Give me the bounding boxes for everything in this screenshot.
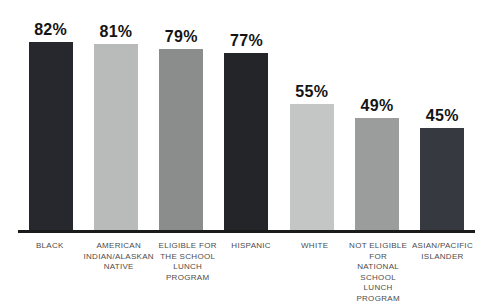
bar-chart: 82% 81% 79% 77% 55% 49% 45% BLACK	[0, 0, 498, 304]
category-label-eligible-school-lunch: ELIGIBLE FOR THE SCHOOL LUNCH PROGRAM	[156, 241, 219, 304]
bar	[290, 104, 334, 232]
bar	[159, 49, 203, 232]
bar-group-asian-pacific-islander: 45%	[410, 0, 475, 232]
bar	[420, 128, 464, 232]
bar-group-not-eligible-school-lunch: 49%	[344, 0, 409, 232]
bar	[355, 118, 399, 232]
category-label-asian-pacific-islander: ASIAN/PACIFIC ISLANDER	[410, 241, 475, 304]
plot-area: 82% 81% 79% 77% 55% 49% 45%	[18, 0, 475, 232]
bar	[29, 42, 73, 232]
bar-value-label: 79%	[165, 29, 198, 45]
category-label-white: WHITE	[283, 241, 346, 304]
category-label-hispanic: HISPANIC	[219, 241, 282, 304]
category-label-black: BLACK	[18, 241, 81, 304]
bar-group-black: 82%	[18, 0, 83, 232]
bar-group-eligible-school-lunch: 79%	[149, 0, 214, 232]
bar-group-white: 55%	[279, 0, 344, 232]
bar-value-label: 55%	[295, 84, 328, 100]
bar-value-label: 81%	[99, 24, 132, 40]
bar-value-label: 45%	[426, 108, 459, 124]
bar-group-hispanic: 77%	[214, 0, 279, 232]
bar-value-label: 49%	[361, 98, 394, 114]
bar	[224, 53, 268, 232]
x-axis-line	[18, 230, 475, 233]
category-label-american-indian-alaskan-native: AMERICAN INDIAN/ALASKAN NATIVE	[81, 241, 155, 304]
category-labels-row: BLACK AMERICAN INDIAN/ALASKAN NATIVE ELI…	[18, 241, 475, 304]
bar-value-label: 82%	[34, 22, 67, 38]
bar-group-american-indian-alaskan-native: 81%	[83, 0, 148, 232]
bar-value-label: 77%	[230, 33, 263, 49]
category-label-not-eligible-school-lunch: NOT ELIGIBLE FOR NATIONAL SCHOOL LUNCH P…	[346, 241, 409, 304]
bar	[94, 44, 138, 232]
